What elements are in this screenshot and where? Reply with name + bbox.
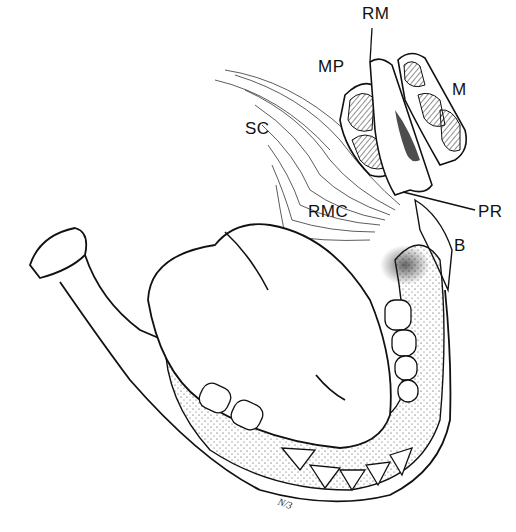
mandible-illustration (0, 0, 516, 532)
label-m: M (452, 81, 467, 98)
label-mp: MP (318, 58, 345, 75)
label-b: B (454, 237, 466, 254)
label-sc: SC (245, 120, 270, 137)
label-rmc: RMC (308, 203, 348, 220)
label-pr: PR (478, 203, 503, 220)
pr-leader (403, 192, 475, 210)
diagram-canvas: RM MP M SC RMC PR B N/3 (0, 0, 516, 532)
label-rm: RM (362, 5, 389, 22)
